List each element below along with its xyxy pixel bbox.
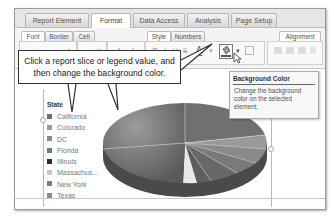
legend-item-california[interactable]: California bbox=[47, 111, 98, 122]
tab-analysis[interactable]: Analysis bbox=[187, 13, 229, 27]
border-icon[interactable] bbox=[245, 46, 254, 55]
tooltip-body: Change the background color on the selec… bbox=[230, 85, 318, 113]
legend-item-texas[interactable]: Texas bbox=[47, 190, 98, 201]
legend-item-colorado[interactable]: Colorado bbox=[47, 122, 98, 133]
legend-swatch bbox=[47, 170, 52, 175]
chart-right-guide bbox=[271, 109, 272, 207]
font-color-dropdown-icon[interactable]: ▾ bbox=[206, 46, 216, 55]
tooltip-title: Background Color bbox=[233, 72, 315, 85]
font-color-button[interactable]: A bbox=[194, 46, 204, 55]
callout-line-1: Click a report slice or legend value, an… bbox=[19, 55, 180, 67]
legend-item-dc[interactable]: DC bbox=[47, 134, 98, 145]
legend-swatch bbox=[47, 148, 52, 153]
background-color-tooltip: Background Color Change the background c… bbox=[229, 71, 319, 119]
strikethrough-button[interactable]: S bbox=[180, 46, 190, 55]
instruction-callout: Click a report slice or legend value, an… bbox=[18, 50, 181, 84]
legend-swatch bbox=[47, 193, 52, 198]
legend-swatch bbox=[47, 114, 52, 119]
legend-item-florida[interactable]: Florida bbox=[47, 145, 98, 156]
resize-handle-left[interactable] bbox=[40, 117, 46, 123]
tab-format[interactable]: Format bbox=[91, 13, 131, 28]
background-color-button[interactable] bbox=[219, 44, 233, 59]
chart-legend: State California Colorado DC Florida Ill… bbox=[47, 101, 98, 201]
paint-bucket-icon bbox=[220, 45, 232, 58]
align-center-icon[interactable] bbox=[286, 47, 294, 54]
wrap-text-icon[interactable] bbox=[310, 47, 316, 54]
legend-item-illinois[interactable]: Illinois bbox=[47, 156, 98, 167]
legend-swatch bbox=[47, 159, 52, 164]
alignment-group bbox=[267, 41, 323, 65]
legend-swatch bbox=[47, 136, 52, 141]
legend-item-massachusetts[interactable]: Massachus... bbox=[47, 167, 98, 178]
chart-left-guide bbox=[43, 89, 44, 207]
legend-title: State bbox=[47, 101, 98, 108]
main-tab-bar: Report Element Format Data Access Analys… bbox=[15, 9, 325, 28]
legend-item-new-york[interactable]: New York bbox=[47, 179, 98, 190]
tab-report-element[interactable]: Report Element bbox=[25, 13, 89, 27]
legend-swatch bbox=[47, 181, 52, 186]
mouse-cursor-icon bbox=[233, 52, 242, 64]
tab-data-access[interactable]: Data Access bbox=[133, 13, 185, 27]
align-right-icon[interactable] bbox=[298, 47, 306, 54]
tab-page-setup[interactable]: Page Setup bbox=[231, 13, 277, 27]
report-editor-window: Report Element Format Data Access Analys… bbox=[14, 8, 326, 210]
callout-line-2: then change the background color. bbox=[19, 67, 180, 79]
align-left-icon[interactable] bbox=[274, 47, 282, 54]
legend-swatch bbox=[47, 125, 52, 130]
